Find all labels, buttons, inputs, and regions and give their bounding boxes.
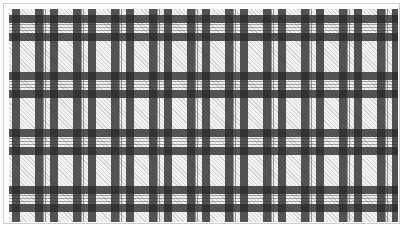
plaid-pattern — [9, 9, 398, 222]
